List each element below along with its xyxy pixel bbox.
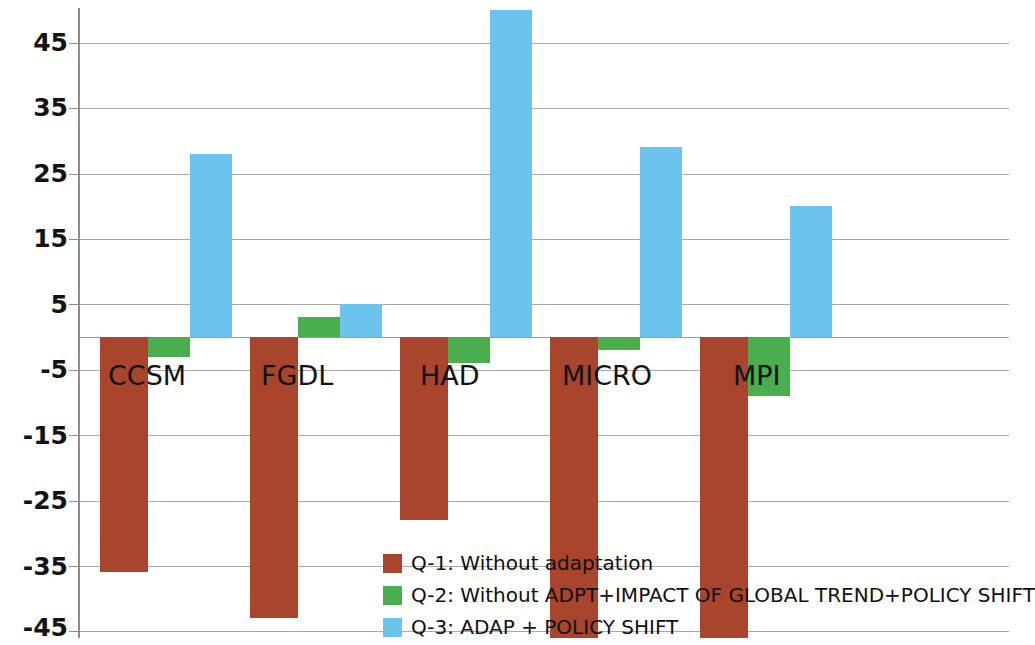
- bar-fgdl-q3: [340, 304, 382, 337]
- legend-item-q1: Q-1: Without adaptation: [383, 548, 1035, 578]
- y-axis-line: [78, 8, 80, 638]
- legend-label-q1: Q-1: Without adaptation: [411, 551, 653, 575]
- gridline-neg5: [78, 370, 1009, 371]
- legend-item-q3: Q-3: ADAP + POLICY SHIFT: [383, 612, 1035, 642]
- y-tick-label-neg5: -5: [40, 355, 68, 384]
- y-axis-labels: 45 35 25 15 5 -5 -15 -25 -35 -45: [0, 0, 78, 645]
- category-label-micro: MICRO: [562, 360, 652, 391]
- legend-swatch-q1-icon: [383, 554, 402, 573]
- legend-swatch-q2-icon: [383, 586, 402, 605]
- y-tick-neg45: [69, 631, 80, 632]
- category-label-had: HAD: [420, 360, 480, 391]
- bar-had-q3: [490, 10, 532, 337]
- y-tick-neg35: [69, 566, 80, 567]
- y-tick-neg25: [69, 501, 80, 502]
- y-tick-label-25: 25: [33, 159, 68, 188]
- bar-micro-q3: [640, 147, 682, 337]
- category-label-fgdl: FGDL: [261, 360, 333, 391]
- bar-ccsm-q2: [148, 337, 190, 357]
- y-tick-15: [69, 239, 80, 240]
- gridline-neg15: [78, 435, 1009, 436]
- category-label-mpi: MPI: [733, 360, 781, 391]
- y-tick-label-5: 5: [51, 290, 68, 319]
- y-tick-neg5: [69, 370, 80, 371]
- bar-fgdl-q2: [298, 317, 340, 337]
- bar-ccsm-q3: [190, 154, 232, 337]
- gridline-neg25: [78, 501, 1009, 502]
- plot-area: CCSM FGDL HAD MICRO MPI: [78, 0, 1009, 638]
- y-tick-label-15: 15: [33, 224, 68, 253]
- gridline-zero: [78, 337, 1009, 338]
- bar-mpi-q3: [790, 206, 832, 337]
- y-tick-label-neg15: -15: [23, 421, 68, 450]
- category-label-ccsm: CCSM: [108, 360, 186, 391]
- legend-item-q2: Q-2: Without ADPT+IMPACT OF GLOBAL TREND…: [383, 580, 1035, 610]
- bar-micro-q2: [598, 337, 640, 350]
- y-tick-35: [69, 108, 80, 109]
- gridline-45: [78, 43, 1009, 44]
- y-tick-label-neg35: -35: [23, 552, 68, 581]
- y-tick-neg15: [69, 435, 80, 436]
- y-tick-45: [69, 43, 80, 44]
- y-tick-label-neg45: -45: [23, 613, 68, 642]
- y-tick-25: [69, 174, 80, 175]
- legend-swatch-q3-icon: [383, 618, 402, 637]
- y-tick-label-neg25: -25: [23, 486, 68, 515]
- gridline-35: [78, 108, 1009, 109]
- legend-label-q2: Q-2: Without ADPT+IMPACT OF GLOBAL TREND…: [411, 583, 1035, 607]
- y-tick-5: [69, 304, 80, 305]
- y-tick-label-45: 45: [33, 28, 68, 57]
- chart-legend: Q-1: Without adaptation Q-2: Without ADP…: [383, 548, 1035, 644]
- legend-label-q3: Q-3: ADAP + POLICY SHIFT: [411, 615, 678, 639]
- y-tick-label-35: 35: [33, 93, 68, 122]
